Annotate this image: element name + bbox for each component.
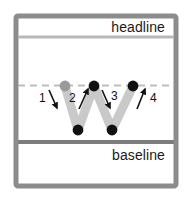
stroke-number-4: 4 (150, 92, 157, 104)
vertex-dot-top-middle (89, 81, 100, 92)
diagram-canvas: headline baseline 1 2 3 4 (0, 0, 189, 200)
vertex-dot-bottom-right (107, 125, 118, 136)
headline-label: headline (111, 20, 165, 34)
stroke-number-3: 3 (111, 90, 118, 102)
stroke-number-1: 1 (39, 92, 46, 104)
vertex-dot-bottom-left (73, 125, 84, 136)
start-point-dot (60, 81, 71, 92)
baseline-label: baseline (112, 148, 165, 162)
end-point-dot (128, 81, 139, 92)
stroke-number-2: 2 (69, 92, 76, 104)
